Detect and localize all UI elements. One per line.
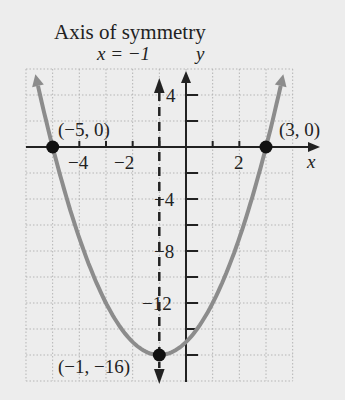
axis-equation-label: x = −1 — [97, 44, 150, 63]
up-arrow-icon — [154, 78, 165, 93]
x-axis — [26, 142, 320, 152]
y-axis-label: y — [196, 44, 204, 63]
y-axis — [181, 71, 191, 382]
tick-label-y-m12: −12 — [142, 294, 172, 313]
y-axis-arrow-icon — [181, 71, 191, 83]
point-vertex-label: (−1, −16) — [58, 357, 130, 376]
curve-arrow-left-icon — [32, 74, 44, 87]
point-right-intercept — [260, 141, 273, 154]
tick-label-x-m4: −4 — [68, 153, 88, 172]
point-right-label: (3, 0) — [279, 120, 320, 139]
x-axis-label: x — [307, 152, 315, 171]
tick-label-x-2: 2 — [234, 153, 244, 172]
point-left-label: (−5, 0) — [58, 120, 110, 139]
tick-label-x-m2: −2 — [114, 153, 134, 172]
axis-of-symmetry-line — [154, 78, 165, 384]
tick-label-y-4: 4 — [166, 86, 176, 105]
title-label: Axis of symmetry — [54, 22, 206, 43]
tick-label-y-m4: −4 — [154, 190, 174, 209]
curve-arrow-right-icon — [275, 74, 287, 87]
point-vertex — [153, 349, 166, 362]
tick-label-y-m8: −8 — [154, 242, 174, 261]
point-left-intercept — [46, 141, 59, 154]
down-arrow-icon — [154, 369, 165, 384]
